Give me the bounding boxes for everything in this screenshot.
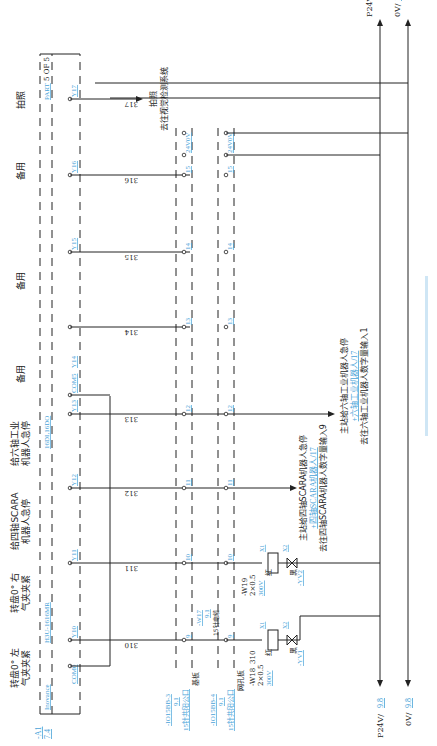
arrow-0v-out: [405, 19, 411, 26]
wire-label-315: 315: [125, 253, 138, 261]
tb1-0v-label: 0V: [184, 132, 192, 141]
camera-line2: 去往视觉检测系统: [159, 67, 169, 131]
tb1-t15-label: 15: [184, 166, 192, 174]
port-com5[interactable]: COM5: [70, 373, 78, 393]
yv2-pin1: X1: [259, 545, 265, 552]
scara-link[interactable]: +四轴SCARA机器人/17: [308, 447, 318, 528]
tb2-connector: 15针共阳公口: [226, 689, 235, 731]
tb1-24v-label: 24V: [184, 141, 192, 153]
tb1-t12-label: 12: [184, 405, 192, 413]
yv1-wire-num: 310: [249, 651, 257, 664]
wire-label-310: 310: [125, 641, 138, 649]
wire-com0-return: [70, 396, 110, 666]
yv2-cable: -W19: [241, 578, 249, 596]
yv1-pin1: X1: [259, 622, 265, 629]
arrow-0v-in: [405, 680, 411, 687]
module-ref[interactable]: -A1: [34, 727, 43, 739]
port-y11[interactable]: Y11: [70, 549, 78, 561]
tb1-t13-label: 13: [184, 318, 192, 326]
module-part: PART: [43, 82, 51, 100]
tb2-t11-label: 11: [226, 479, 234, 486]
arrow-312: [290, 485, 297, 491]
yv1-spec: 2×0.5: [257, 665, 265, 686]
tb1-ref[interactable]: -IO15BB-3: [164, 694, 172, 726]
tb1-t10-label: 10: [184, 554, 192, 562]
desc-y13-l1: 给六轴工业: [9, 421, 20, 466]
tb2-t9-label: 9: [226, 634, 234, 638]
yv1-voltage: 300V: [265, 670, 273, 686]
tb2-t15-label: 15: [226, 166, 234, 174]
module-submodule: 16DI,16DO: [43, 416, 51, 449]
desc-y16: 备用: [15, 162, 26, 180]
tb1-connector: 15针共阳公口: [181, 689, 190, 731]
port-y12[interactable]: Y12: [70, 473, 78, 486]
six-axis-line2: 去往六轴工业机器人数字量输入1: [359, 327, 369, 444]
wire-label-317: 317: [125, 100, 138, 108]
port-com0[interactable]: COM0: [70, 664, 78, 684]
scara-line2: 去往四轴SCARA机器人数字量输入9: [318, 424, 328, 552]
tb2-sheet[interactable]: 9.1: [217, 697, 225, 706]
plc-ports: COM0 Y10 Y11 Y12 Y13 COM5 Y14 Y15 Y16 Y1…: [68, 84, 78, 684]
module-model: H3U-1616MR: [43, 602, 51, 643]
wire-label-312: 312: [125, 489, 138, 497]
port-y15[interactable]: Y15: [70, 237, 78, 250]
module-brand: Inovance: [43, 684, 51, 710]
figure-caption: [425, 276, 428, 436]
tb2-ref[interactable]: -IO15BB-4: [209, 694, 217, 726]
p24v-in-label: P24V/: [376, 714, 385, 738]
camera-line1: 拍照: [148, 91, 158, 107]
wire-label-314: 314: [124, 328, 138, 336]
column-descriptions: 转盘0° 左 气夹夹紧 转盘0° 右 气夹夹紧 给四轴SCARA 机器人急停 给…: [9, 91, 31, 688]
p24v-in-ref[interactable]: 9.8: [376, 698, 385, 708]
port-y13[interactable]: Y13: [70, 399, 78, 412]
module-ref-sheet[interactable]: 7.4: [43, 729, 52, 739]
cable-ref[interactable]: -W17: [195, 610, 203, 626]
desc-y11-l1: 转盘0° 右: [9, 573, 20, 613]
yv1-ref[interactable]: -YV1: [296, 650, 304, 666]
valve-yv2: -W19 2×0.5 300V 红 X1 X2 黑 -YV2: [226, 545, 304, 596]
port-y16[interactable]: Y16: [70, 160, 78, 173]
arrow-p24v-out: [377, 19, 383, 26]
desc-y13-l2: 机器人急停: [20, 421, 31, 466]
yv1-pin2: X2: [282, 622, 288, 629]
wire-label-311: 311: [125, 564, 138, 572]
desc-y10-l1: 转盘0° 左: [9, 648, 20, 688]
yv1-cable: -W18: [249, 668, 257, 686]
0v-in-ref[interactable]: 9.8: [404, 698, 413, 708]
yv1-coil: [268, 630, 278, 650]
port-y14[interactable]: Y14: [70, 355, 78, 368]
0v-out-ref[interactable]: 13.0: [393, 0, 402, 1]
arrow-p24v-in: [377, 680, 383, 687]
cable-sheet[interactable]: 9.1: [203, 609, 211, 618]
six-axis-signal: 主站给六轴工业机器人急停 +六轴工业机器人/17 去往六轴工业机器人数字量输入1: [328, 327, 369, 444]
wire-label-316: 316: [124, 176, 138, 184]
desc-y14: 备用: [15, 365, 26, 383]
tb1-t9-label: 9: [184, 634, 192, 638]
tb2-t10-label: 10: [226, 554, 234, 562]
tb2-0v-label: 0V: [226, 132, 234, 141]
port-y10[interactable]: Y10: [70, 625, 78, 638]
module-part-of: 5 OF 5: [43, 57, 51, 81]
scara-line1: 主站给四轴SCARA机器人急停: [298, 435, 308, 542]
desc-y10-l2: 气夹夹紧: [20, 650, 31, 686]
yv2-voltage: 300V: [257, 580, 265, 596]
desc-y12-l2: 机器人急停: [20, 499, 31, 544]
port-y17[interactable]: Y17: [70, 84, 78, 97]
schematic: 转盘0° 左 气夹夹紧 转盘0° 右 气夹夹紧 给四轴SCARA 机器人急停 给…: [0, 0, 437, 746]
tb2-24v-label: 24V: [226, 141, 234, 153]
0v-in-label: 0V/: [404, 712, 413, 726]
arrow-313: [328, 411, 335, 417]
six-axis-line1: 主站给六轴工业机器人急停: [339, 338, 349, 434]
yv2-ref[interactable]: -YV2: [296, 570, 304, 586]
0v-out-label: 0V/: [393, 3, 402, 17]
desc-y15: 备用: [15, 272, 26, 290]
yv1-return: [278, 616, 380, 640]
cable-w17: -W17 9.1 15针电缆: [195, 609, 220, 636]
tb1-sheet[interactable]: 9.1: [172, 697, 180, 706]
six-axis-link[interactable]: +六轴工业机器人/17: [349, 351, 359, 422]
tb1-t14-label: 14: [184, 243, 192, 251]
desc-y11-l2: 气夹夹紧: [20, 575, 31, 611]
yv2-spec: 2×0.5: [249, 575, 257, 596]
p24v-out-label: P24V/: [365, 0, 374, 17]
scara-signal: 主站给四轴SCARA机器人急停 +四轴SCARA机器人/17 去往四轴SCARA…: [290, 424, 328, 552]
